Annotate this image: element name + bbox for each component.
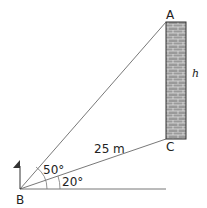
flag-icon [13,160,20,168]
brick-wall [166,22,186,139]
point-label-B: B [16,193,24,207]
height-label: h [192,67,199,80]
point-label-C: C [166,140,174,154]
angle-label-20: 20° [62,175,83,189]
point-label-A: A [166,8,175,22]
angle-arc-20 [58,176,60,189]
trig-diagram: A C B h 25 m 50° 20° [0,0,207,208]
distance-label: 25 m [94,142,125,156]
